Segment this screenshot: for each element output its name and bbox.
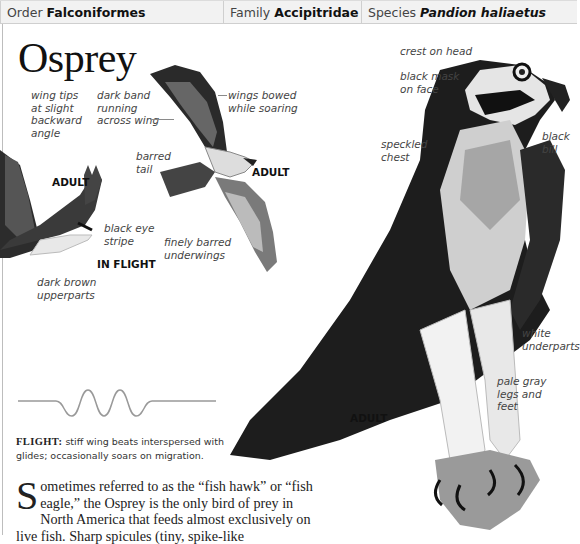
label-dark-band: dark band running across wing <box>97 89 159 127</box>
species-value: Pandion haliaetus <box>420 5 546 20</box>
order-cell: Order Falconiformes <box>0 1 224 24</box>
label-wing-tips: wing tips at slight backward angle <box>31 89 82 139</box>
label-black-eye-stripe: black eye stripe <box>104 222 154 247</box>
flight-description: FLIGHT: stiff wing beats interspersed wi… <box>16 435 226 463</box>
label-pale-gray-legs: pale gray legs and feet <box>497 375 546 413</box>
tag-adult-soaring: ADULT <box>252 166 289 178</box>
tag-in-flight: IN FLIGHT <box>97 258 156 270</box>
label-crest-on-head: crest on head <box>400 45 472 58</box>
family-label: Family <box>230 5 270 20</box>
drop-cap: S <box>16 480 38 512</box>
osprey-in-flight-illustration <box>0 140 110 260</box>
description-text: ometimes referred to as the “fish hawk” … <box>16 478 313 544</box>
tag-adult-flying: ADULT <box>52 176 89 188</box>
label-finely-barred-underwings: finely barred underwings <box>164 236 231 261</box>
species-cell: Species Pandion haliaetus <box>362 1 577 24</box>
label-white-underparts: white underparts <box>522 327 580 352</box>
leader-wings-bowed <box>218 95 227 96</box>
family-value: Accipitridae <box>274 5 358 20</box>
species-description: S ometimes referred to as the “fish hawk… <box>16 478 316 544</box>
label-dark-brown-upperparts: dark brown upperparts <box>37 276 96 301</box>
label-barred-tail: barred tail <box>136 150 171 175</box>
osprey-perched-illustration <box>190 40 577 535</box>
order-value: Falconiformes <box>47 5 146 20</box>
leader-dark-band <box>150 119 174 120</box>
label-speckled-chest: speckled chest <box>381 138 428 163</box>
label-black-mask: black mask on face <box>400 70 459 95</box>
flight-label: FLIGHT: <box>16 436 62 447</box>
tag-adult-perched: ADULT <box>350 412 387 424</box>
species-label: Species <box>368 5 416 20</box>
flight-pattern-wave-icon <box>16 388 216 418</box>
page-title: Osprey <box>18 34 136 82</box>
label-wings-bowed: wings bowed while soaring <box>228 89 298 114</box>
label-black-bill: black bill <box>542 130 570 155</box>
left-margin-rule <box>2 24 3 535</box>
order-label: Order <box>7 5 43 20</box>
taxonomy-header: Order Falconiformes Family Accipitridae … <box>0 0 577 24</box>
family-cell: Family Accipitridae <box>224 1 362 24</box>
